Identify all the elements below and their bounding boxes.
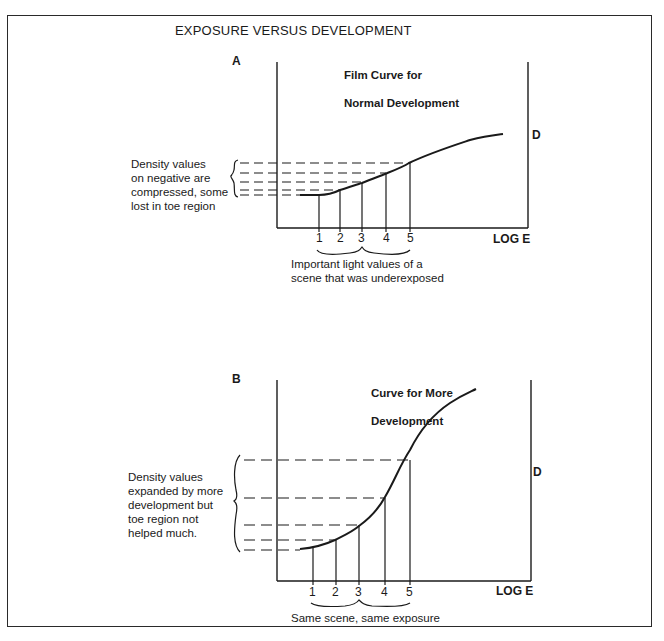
panel-a-left-brace-icon	[231, 160, 238, 197]
panel-a-film-curve	[300, 134, 503, 195]
panel-b-bottom-brace-icon	[311, 600, 410, 607]
panel-a-bottom-brace-icon	[317, 247, 410, 254]
panel-a-density-lines	[240, 163, 410, 195]
panel-a-axes	[277, 62, 528, 228]
panel-b-axes	[277, 380, 531, 581]
diagram-graphics	[0, 0, 664, 641]
panel-b-film-curve	[300, 389, 476, 549]
panel-b-left-brace-icon	[234, 455, 240, 552]
